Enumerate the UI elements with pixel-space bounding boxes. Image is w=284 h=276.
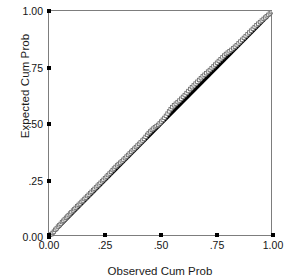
y-tick-label: .50 xyxy=(28,119,43,130)
data-point-marker xyxy=(271,11,273,13)
x-tick-label: .25 xyxy=(98,240,113,251)
y-tick-mark xyxy=(47,66,51,70)
x-tick-mark xyxy=(103,233,107,237)
x-tick-mark xyxy=(215,233,219,237)
x-tick-label: 1.00 xyxy=(263,240,283,251)
x-axis-title: Observed Cum Prob xyxy=(48,265,272,276)
data-layer xyxy=(49,11,273,237)
scatter-markers xyxy=(49,11,273,237)
normal-pp-plot: Expected Cum Prob 0.00.25.50.751.00 0.00… xyxy=(0,0,284,276)
x-tick-mark xyxy=(159,233,163,237)
x-tick-label: 0.00 xyxy=(39,240,59,251)
y-tick-mark xyxy=(47,122,51,126)
x-tick-label: .75 xyxy=(210,240,225,251)
plot-area: 0.00.25.50.751.00 0.00.25.50.751.00 xyxy=(48,10,272,236)
x-tick-mark xyxy=(271,233,275,237)
y-tick-mark xyxy=(47,179,51,183)
y-tick-mark xyxy=(47,9,51,13)
y-axis-title: Expected Cum Prob xyxy=(19,1,35,171)
y-tick-label: .25 xyxy=(28,175,43,186)
y-tick-label: .75 xyxy=(28,62,43,73)
x-tick-label: .50 xyxy=(154,240,169,251)
y-tick-label: 1.00 xyxy=(23,6,43,17)
x-tick-mark xyxy=(47,233,51,237)
plot-inner: 0.00.25.50.751.00 0.00.25.50.751.00 xyxy=(49,11,271,235)
